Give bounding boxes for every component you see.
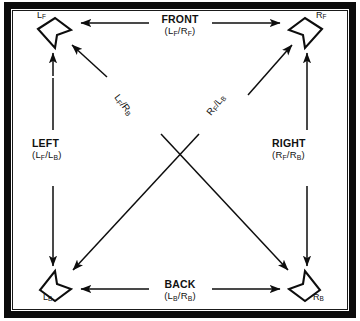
edge-right-pair: (RF/RB) [272, 149, 348, 162]
edge-label-back: BACK (LB/RB) [145, 278, 215, 303]
edge-back-pair: (LB/RB) [145, 290, 215, 303]
edge-left-title: LEFT [32, 137, 108, 149]
edge-front-pair: (LF/RF) [145, 25, 215, 38]
edge-front-title: FRONT [145, 13, 215, 25]
node-label-rf: RF [316, 10, 326, 20]
arrow-diag-to-rf [248, 45, 292, 95]
diagram-root: LF RF LB RB FRONT (LF/RF) BACK (LB/RB) L… [0, 0, 360, 321]
edge-label-front: FRONT (LF/RF) [145, 13, 215, 38]
edge-label-right: RIGHT (RF/RB) [272, 137, 348, 162]
arrow-diag-to-lf [72, 45, 107, 77]
node-label-lb: LB [43, 292, 52, 302]
speaker-dart-icon-rf [289, 18, 322, 48]
edge-label-left: LEFT (LF/LB) [32, 137, 108, 162]
speaker-dart-icon-lf [38, 18, 71, 48]
edge-back-title: BACK [145, 278, 215, 290]
diagram-canvas: LF RF LB RB FRONT (LF/RF) BACK (LB/RB) L… [0, 0, 360, 321]
node-label-lf: LF [37, 10, 46, 20]
edge-left-pair: (LF/LB) [32, 149, 108, 162]
node-label-rb: RB [313, 292, 324, 302]
edge-right-title: RIGHT [272, 137, 348, 149]
